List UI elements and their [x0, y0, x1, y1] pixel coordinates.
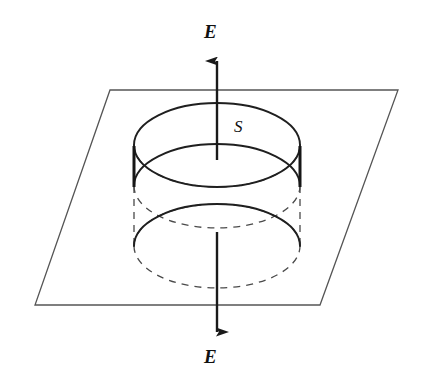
diagram-canvas — [0, 0, 421, 390]
gauss-law-figure: E E S — [0, 0, 421, 390]
gaussian-surface-label: S — [234, 117, 243, 137]
field-label-top: E — [0, 21, 421, 43]
field-label-bottom: E — [0, 346, 421, 368]
mid-ellipse-back-arc — [134, 186, 300, 228]
